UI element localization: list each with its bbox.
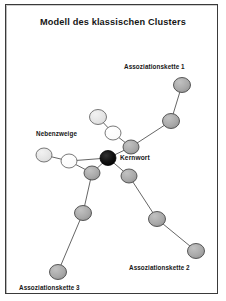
node-a3_1[interactable] xyxy=(84,166,100,180)
figure-canvas: Modell des klassischen Clusters Assoziat… xyxy=(0,0,226,301)
node-a2_1[interactable] xyxy=(121,169,137,183)
label-assoziationskette-1: Assoziationskette 1 xyxy=(124,64,185,70)
node-a3_2[interactable] xyxy=(75,206,92,221)
node-nb_3[interactable] xyxy=(105,126,121,140)
node-a1_2[interactable] xyxy=(163,114,180,129)
node-nb_1[interactable] xyxy=(61,154,77,168)
edge-layer xyxy=(44,85,196,272)
label-kernwort: Kernwort xyxy=(120,155,150,162)
figure-title: Modell des klassischen Clusters xyxy=(0,18,226,27)
label-assoziationskette-3: Assoziationskette 3 xyxy=(19,285,80,291)
label-assoziationskette-2: Assoziationskette 2 xyxy=(129,265,190,271)
node-a3_3[interactable] xyxy=(50,265,67,280)
edge-a3_2-a3_3 xyxy=(58,213,83,272)
cluster-diagram xyxy=(0,0,226,301)
node-a2_3[interactable] xyxy=(188,244,205,259)
node-a1_1[interactable] xyxy=(123,140,139,154)
label-nebenzweige: Nebenzweige xyxy=(36,131,77,137)
node-nb_4[interactable] xyxy=(90,110,107,125)
node-core[interactable] xyxy=(100,151,116,166)
node-nb_2[interactable] xyxy=(36,148,52,162)
node-a2_2[interactable] xyxy=(149,212,166,227)
node-layer xyxy=(36,78,205,280)
node-a1_3[interactable] xyxy=(174,78,191,93)
